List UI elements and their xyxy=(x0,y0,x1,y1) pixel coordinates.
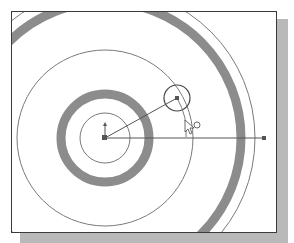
line-end-point[interactable] xyxy=(262,136,266,140)
sketch-canvas[interactable] xyxy=(11,11,277,233)
small-circle-center-point[interactable] xyxy=(175,96,179,100)
center-point[interactable] xyxy=(102,135,107,140)
outer-thick-ring[interactable] xyxy=(12,12,241,233)
sketch-drawing xyxy=(12,12,277,233)
diagonal-line[interactable] xyxy=(105,98,177,138)
